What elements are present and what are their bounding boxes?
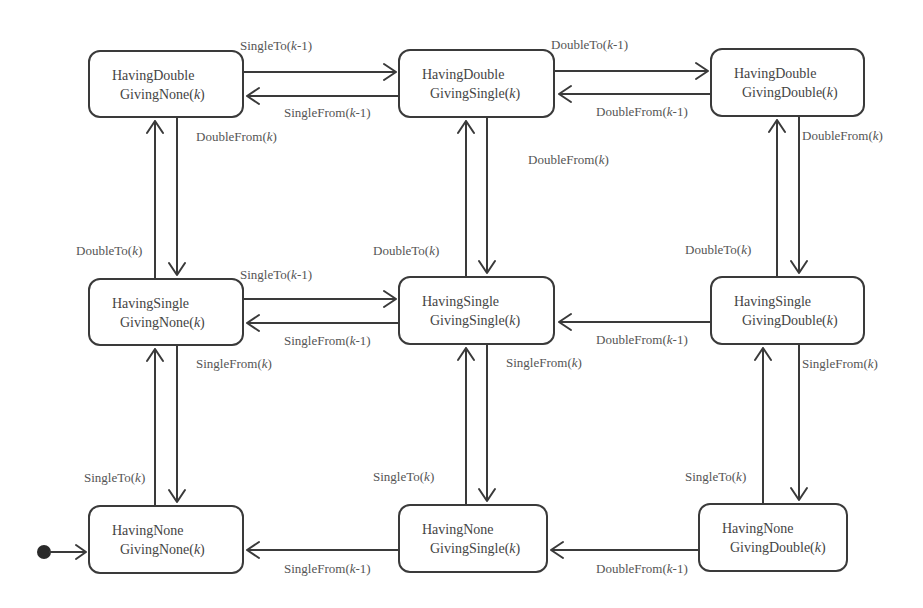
arrow-ds-to-dd xyxy=(555,63,708,79)
label-ss-ns: SingleFrom(k) xyxy=(506,355,582,371)
arrow-sd-to-dd xyxy=(769,120,785,276)
state-having-double-giving-double: HavingDouble GivingDouble(k) xyxy=(710,48,865,117)
arrow-nn-to-sn xyxy=(147,349,163,505)
label-dd-sd: DoubleFrom(k) xyxy=(802,128,883,144)
arrow-ss-to-ds xyxy=(458,121,474,276)
label-ds-ss: DoubleFrom(k) xyxy=(528,152,609,168)
state-line1: HavingNone xyxy=(422,520,494,539)
label-sd-nd: SingleFrom(k) xyxy=(802,356,878,372)
label-ns-nn: SingleFrom(k-1) xyxy=(284,561,371,577)
label-sn-nn: SingleFrom(k) xyxy=(196,356,272,372)
arrow-nd-to-sd xyxy=(755,348,771,503)
label-ss-ds: DoubleTo(k) xyxy=(373,243,439,259)
state-having-none-giving-single: HavingNone GivingSingle(k) xyxy=(398,504,548,573)
state-line2: GivingSingle(k) xyxy=(430,311,520,330)
state-line2: GivingSingle(k) xyxy=(430,539,520,558)
arrow-sd-to-ss xyxy=(559,314,710,330)
state-having-single-giving-single: HavingSingle GivingSingle(k) xyxy=(398,276,555,345)
arrow-ns-to-ss xyxy=(458,348,474,504)
arrow-ss-to-ns xyxy=(479,345,495,501)
arrow-sn-to-dn xyxy=(147,121,163,278)
state-line2: GivingDouble(k) xyxy=(730,538,826,557)
initial-arrow xyxy=(50,545,86,559)
state-line1: HavingNone xyxy=(722,519,794,538)
initial-state-dot xyxy=(37,545,51,559)
state-line1: HavingNone xyxy=(112,521,184,540)
arrow-ds-to-ss xyxy=(479,118,495,273)
label-sd-ss: DoubleFrom(k-1) xyxy=(596,332,688,348)
state-line1: HavingSingle xyxy=(422,292,499,311)
state-having-double-giving-none: HavingDouble GivingNone(k) xyxy=(88,50,244,118)
label-nd-sd: SingleTo(k) xyxy=(685,469,746,485)
arrow-ns-to-nn xyxy=(247,542,398,558)
state-having-none-giving-double: HavingNone GivingDouble(k) xyxy=(698,503,848,572)
state-line1: HavingSingle xyxy=(734,292,811,311)
arrow-dd-to-ds xyxy=(559,86,710,102)
state-line2: GivingSingle(k) xyxy=(430,84,520,103)
label-ds-dd: DoubleTo(k-1) xyxy=(551,37,628,53)
label-sd-dd: DoubleTo(k) xyxy=(685,242,751,258)
state-line1: HavingDouble xyxy=(422,65,504,84)
state-having-single-giving-none: HavingSingle GivingNone(k) xyxy=(88,278,244,346)
state-line2: GivingNone(k) xyxy=(120,313,205,332)
label-ss-sn: SingleFrom(k-1) xyxy=(284,333,371,349)
label-ds-dn: SingleFrom(k-1) xyxy=(284,105,371,121)
label-dn-sn: DoubleFrom(k) xyxy=(196,129,277,145)
arrow-ss-to-sn xyxy=(247,315,398,331)
label-ns-ss: SingleTo(k) xyxy=(373,469,434,485)
arrow-ds-to-dn xyxy=(247,88,398,104)
label-dn-ds: SingleTo(k-1) xyxy=(240,38,312,54)
state-having-none-giving-none: HavingNone GivingNone(k) xyxy=(88,505,244,574)
state-line2: GivingDouble(k) xyxy=(742,311,838,330)
arrow-nd-to-ns xyxy=(551,542,698,558)
label-dd-ds: DoubleFrom(k-1) xyxy=(596,104,688,120)
label-sn-ss: SingleTo(k-1) xyxy=(240,267,312,283)
state-line1: HavingSingle xyxy=(112,294,189,313)
state-diagram: HavingDouble GivingNone(k) HavingDouble … xyxy=(0,0,923,608)
state-having-double-giving-single: HavingDouble GivingSingle(k) xyxy=(398,49,555,118)
state-line2: GivingNone(k) xyxy=(120,85,205,104)
state-line2: GivingNone(k) xyxy=(120,540,205,559)
state-line1: HavingDouble xyxy=(734,64,816,83)
arrow-dn-to-sn xyxy=(169,118,185,275)
state-line2: GivingDouble(k) xyxy=(742,83,838,102)
arrow-dn-to-ds xyxy=(244,64,396,80)
state-having-single-giving-double: HavingSingle GivingDouble(k) xyxy=(710,276,865,345)
state-line1: HavingDouble xyxy=(112,66,194,85)
label-nn-sn: SingleTo(k) xyxy=(84,470,145,486)
arrow-sn-to-nn xyxy=(169,346,185,502)
arrow-sn-to-ss xyxy=(244,291,396,307)
label-sn-dn: DoubleTo(k) xyxy=(76,243,142,259)
label-nd-ns: DoubleFrom(k-1) xyxy=(596,561,688,577)
